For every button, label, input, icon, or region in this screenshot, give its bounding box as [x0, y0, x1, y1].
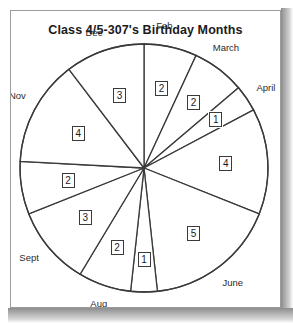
slice-count-dec: 3 [113, 88, 126, 103]
slice-count-may: 4 [219, 156, 232, 171]
month-label-april: April [256, 83, 275, 93]
month-label-march: March [213, 43, 239, 53]
window-shadow-bottom [8, 308, 293, 323]
month-label-feb: Feb [156, 21, 172, 31]
window-shadow-right [281, 8, 293, 323]
slice-count-feb: 2 [155, 81, 168, 96]
slice-count-march: 2 [187, 95, 200, 110]
month-label-nov: Nov [10, 91, 26, 101]
month-label-june: June [223, 278, 244, 288]
slice-count-aug: 2 [111, 240, 124, 255]
chart-frame: Class 4/5-307's Birthday Months 2Feb2Mar… [10, 10, 281, 308]
slice-count-sept: 3 [79, 210, 92, 225]
slice-count-april: 1 [209, 112, 222, 127]
month-label-dec: Dec [85, 28, 102, 38]
screenshot-canvas: Class 4/5-307's Birthday Months 2Feb2Mar… [0, 0, 293, 323]
slice-count-oct: 2 [62, 173, 75, 188]
month-label-sept: Sept [19, 253, 39, 263]
month-label-aug: Aug [90, 299, 107, 308]
slice-count-july: 1 [138, 252, 151, 267]
month-label-july: July [136, 307, 153, 309]
slice-count-nov: 4 [72, 126, 85, 141]
slice-count-june: 5 [187, 226, 200, 241]
